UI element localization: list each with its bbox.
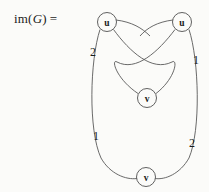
node-label: v: [145, 94, 150, 104]
edge-uleft-vmid-tail: [156, 61, 175, 93]
edge-uright-vmid: [117, 30, 175, 65]
node-v-middle: v: [138, 89, 157, 108]
edge-uleft-vbottom: [92, 30, 137, 179]
edge-top-right-strand: [140, 20, 173, 36]
node-u-top-left: u: [98, 13, 117, 32]
edge-label-lower-right: 2: [189, 136, 195, 150]
edge-uleft-vmid: [114, 30, 173, 65]
node-label: u: [104, 18, 110, 28]
edge-uright-vbottom: [155, 30, 197, 179]
edge-top-left-strand: [116, 20, 150, 36]
figure-container: im(G)= u u v v: [0, 0, 209, 192]
edge-label-lower-left: 1: [93, 129, 99, 143]
node-label: v: [144, 173, 149, 183]
node-label: u: [179, 18, 185, 28]
node-u-top-right: u: [173, 13, 192, 32]
graph-diagram: u u v v 2 1 1 2: [0, 0, 209, 192]
edge-uright-vmid-tail: [115, 61, 138, 93]
edge-label-upper-right: 1: [193, 53, 199, 67]
node-v-bottom: v: [137, 168, 156, 187]
edge-label-upper-left: 2: [90, 45, 96, 59]
